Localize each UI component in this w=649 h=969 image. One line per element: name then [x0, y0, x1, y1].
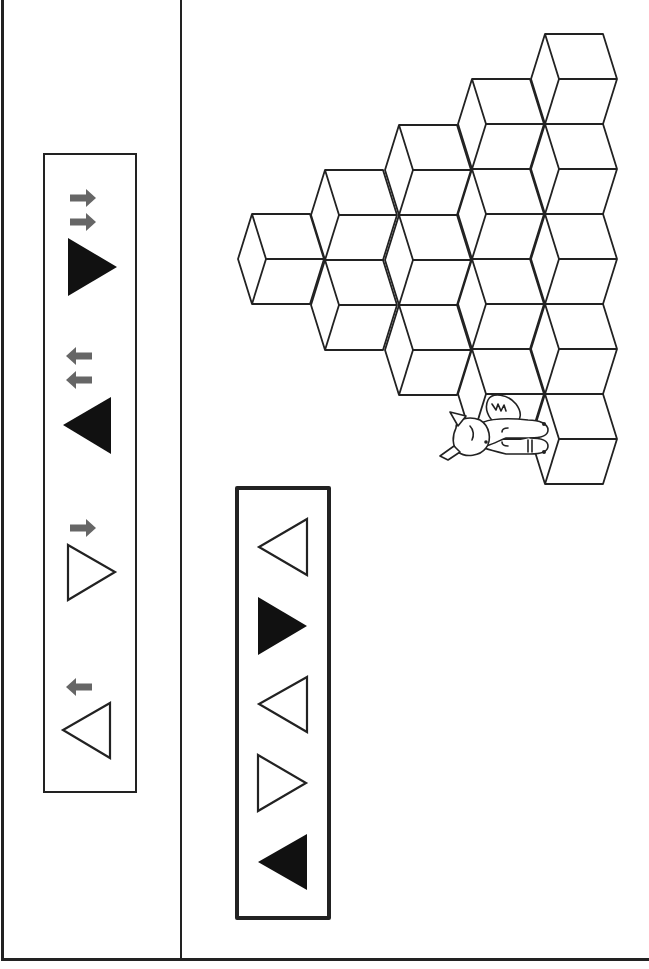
cube [385, 125, 471, 215]
sequence-item-4-outline-triangle-down-icon [258, 755, 306, 811]
sequence-item-5-filled-triangle-up-icon [258, 834, 307, 890]
cube-column-3 [385, 125, 471, 395]
cube [531, 124, 617, 214]
double-arrow-down-icon [70, 189, 96, 231]
sequence-item-3-outline-triangle-up-icon [259, 677, 307, 732]
cube-column-5 [531, 34, 617, 484]
single-arrow-down-icon [70, 519, 96, 537]
cube [311, 170, 397, 260]
cube [238, 214, 324, 304]
sequence-item-1-outline-triangle-up-icon [259, 519, 307, 575]
double-arrow-up-icon [66, 347, 92, 389]
single-arrow-up-icon [66, 678, 92, 696]
filled-triangle-down-icon [68, 238, 117, 296]
cube [458, 259, 544, 349]
cube-pyramid [238, 34, 617, 484]
sequence-item-2-filled-triangle-down-icon [258, 597, 307, 655]
cube [385, 305, 471, 395]
cube-column-1 [238, 214, 324, 304]
legend-item-outline-triangle-down [68, 519, 115, 600]
filled-triangle-up-icon [63, 397, 111, 454]
cube [531, 214, 617, 304]
cube [531, 34, 617, 124]
outline-triangle-down-icon [68, 545, 115, 600]
cube [458, 79, 544, 169]
cube [531, 394, 617, 484]
outline-triangle-up-icon [63, 703, 110, 758]
legend-item-outline-triangle-up [63, 678, 110, 758]
worksheet: Legend of moves Move sequence [0, 0, 649, 969]
legend-item-filled-triangle-down [68, 189, 117, 296]
legend-item-filled-triangle-up [63, 347, 111, 454]
cube [458, 169, 544, 259]
cube [385, 215, 471, 305]
cube [311, 260, 397, 350]
cube [531, 304, 617, 394]
